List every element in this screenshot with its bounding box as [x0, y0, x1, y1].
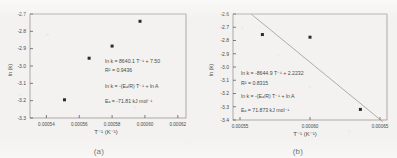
svg-text:-2.8: -2.8 [17, 28, 26, 34]
svg-text:-3.2: -3.2 [17, 97, 26, 103]
svg-text:0.00055: 0.00055 [232, 124, 249, 129]
panel-a-plot: -2.7-2.8-2.9-3.0-3.1-3.2-3.30.000540.000… [0, 0, 198, 150]
panel-a-arrhenius-equation: ln k = -(Eₐ/R) T⁻¹ + ln A [105, 83, 159, 89]
panel-a-x-axis-label: T⁻¹ (K⁻¹) [94, 129, 117, 135]
svg-text:-2.7: -2.7 [17, 11, 26, 17]
panel-b: -2.6-2.7-2.8-2.9-3.0-3.1-3.2-3.3-3.40.00… [199, 0, 397, 158]
panel-b-axes [233, 14, 387, 120]
svg-text:-2.9: -2.9 [220, 51, 229, 57]
svg-text:0.00060: 0.00060 [302, 124, 319, 129]
svg-text:-3.3: -3.3 [220, 104, 229, 110]
panel-b-r-squared: R² = 0.8315 [241, 80, 268, 86]
panel-b-arrhenius-equation: ln k = -(Eₐ/R) T⁻¹ + ln A [241, 93, 295, 99]
svg-text:0.00056: 0.00056 [71, 122, 88, 127]
arrhenius-figure: -2.7-2.8-2.9-3.0-3.1-3.2-3.30.000540.000… [0, 0, 397, 158]
svg-text:-3.4: -3.4 [220, 117, 229, 123]
panel-a: -2.7-2.8-2.9-3.0-3.1-3.2-3.30.000540.000… [0, 0, 198, 158]
svg-text:0.00060: 0.00060 [137, 122, 154, 127]
svg-text:-3.0: -3.0 [220, 64, 229, 70]
svg-text:-3.1: -3.1 [220, 77, 229, 83]
svg-text:0.00062: 0.00062 [169, 122, 186, 127]
svg-text:-3.0: -3.0 [17, 63, 26, 69]
svg-text:-2.9: -2.9 [17, 45, 26, 51]
panel-a-r-squared: R² = 0.9436 [105, 67, 132, 73]
svg-text:-2.8: -2.8 [220, 37, 229, 43]
panel-b-x-axis-label: T⁻¹ (K⁻¹) [293, 131, 316, 137]
panel-a-activation-energy: Eₐ = -71.81 kJ mol⁻¹ [105, 98, 152, 104]
svg-text:-2.7: -2.7 [220, 24, 229, 30]
panel-b-plot: -2.6-2.7-2.8-2.9-3.0-3.1-3.2-3.3-3.40.00… [199, 0, 397, 150]
panel-a-y-axis-label: ln (k) [7, 64, 13, 76]
panel-b-trendline [251, 14, 383, 122]
panel-b-caption: (b) [199, 147, 397, 156]
svg-text:0.00058: 0.00058 [104, 122, 121, 127]
panel-a-fit-equation: ln k = 8640.1 T⁻¹ + 7.50 [105, 58, 160, 64]
panel-b-fit-equation: ln k = -8644.9 T⁻¹ + 2.2232 [241, 70, 304, 76]
svg-text:0.00054: 0.00054 [38, 122, 55, 127]
svg-text:-3.3: -3.3 [17, 115, 26, 121]
svg-text:-3.1: -3.1 [17, 80, 26, 86]
svg-text:-3.2: -3.2 [220, 90, 229, 96]
svg-text:0.00065: 0.00065 [372, 124, 389, 129]
panel-b-activation-energy: Eₐ = 71.873 kJ mol⁻¹ [241, 107, 290, 113]
panel-b-y-axis-label: ln (k) [208, 64, 214, 76]
panel-a-tick-labels: -2.7-2.8-2.9-3.0-3.1-3.2-3.30.000540.000… [17, 11, 186, 127]
panel-a-caption: (a) [0, 147, 198, 156]
svg-text:-2.6: -2.6 [220, 11, 229, 17]
